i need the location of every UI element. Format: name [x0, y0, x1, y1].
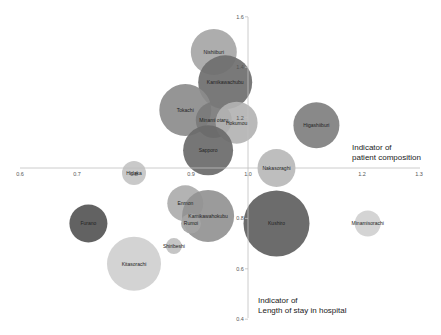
bubble-label: Minamisorachi [352, 220, 384, 226]
y-tick-label: 1.4 [236, 64, 244, 70]
bubble-labels: NishiiburiKamikawachubuTokachiMinami ota… [80, 49, 383, 267]
bubble-label: Minami otaru [199, 117, 228, 123]
y-tick-label: 1.6 [236, 14, 244, 20]
x-tick-label: 1.2 [358, 171, 366, 177]
y-axis-title-line1: Indicator of [258, 296, 298, 305]
bubbles-layer [69, 29, 380, 291]
bubble-label: Nishiiburi [204, 49, 225, 55]
x-tick-label: 0.7 [73, 171, 81, 177]
y-tick-label: 0.4 [236, 316, 244, 322]
bubble-label: Shiribeshi [163, 243, 185, 249]
x-axis-title-line2: patient composition [352, 153, 421, 162]
bubble-label: Rumoi [184, 220, 198, 226]
x-tick-label: 1.0 [244, 171, 252, 177]
bubble-label: Hidaka [126, 170, 142, 176]
bubble-label: Higashiiburi [303, 122, 329, 128]
y-tick-label: 0.8 [236, 215, 244, 221]
bubble-label: Tokachi [177, 107, 194, 113]
bubble-label: Nakasoraghi [262, 165, 290, 171]
x-tick-label: 0.6 [16, 171, 24, 177]
bubble-label: Kitasorachi [122, 261, 147, 267]
bubble-label: Furano [80, 220, 96, 226]
x-tick-label: 1.3 [415, 171, 423, 177]
bubble-label: Sapporo [199, 147, 218, 153]
bubble-label: Kamikawachubu [207, 79, 244, 85]
bubble-label: Hokumou [226, 120, 248, 126]
y-axis-title-line2: Length of stay in hospital [258, 306, 347, 315]
bubble-label: Enmon [177, 200, 193, 206]
bubble-label: Kushiro [268, 220, 285, 226]
bubble-chart: 0.60.70.80.91.01.21.31.61.41.20.80.60.4 … [0, 0, 441, 335]
bubble-label: Kamikawahokubu [188, 213, 228, 219]
x-axis-title-line1: Indicator of [352, 143, 392, 152]
y-tick-label: 0.6 [236, 266, 244, 272]
x-tick-label: 0.9 [187, 171, 195, 177]
